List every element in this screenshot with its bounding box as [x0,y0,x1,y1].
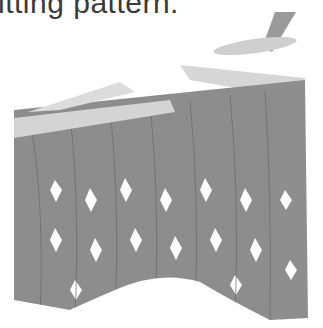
knit-fabric [0,60,323,328]
knitting-illustration [0,0,323,328]
